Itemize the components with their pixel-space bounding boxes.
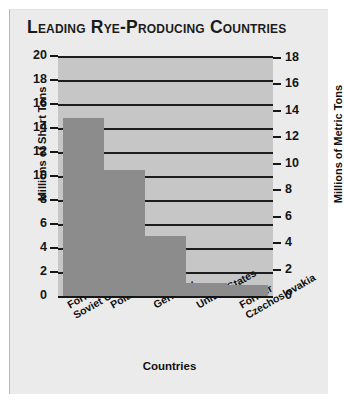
y-tick-right-mark [273, 110, 281, 112]
y-tick-left-mark [50, 247, 58, 249]
y-tick-right-mark [273, 269, 281, 271]
y-tick-left-label: 20 [33, 48, 47, 62]
y-tick-right-label: 6 [285, 209, 292, 223]
y-tick-right-mark [273, 189, 281, 191]
y-tick-left-mark [50, 79, 58, 81]
y-tick-left-mark [50, 271, 58, 273]
y-tick-left-mark [50, 103, 58, 105]
y-tick-right-label: 18 [285, 50, 299, 64]
chart-title: Leading Rye-Producing Countries [27, 17, 297, 38]
y-tick-right-label: 16 [285, 76, 299, 90]
y-axis-left-ticks: 02468101214161820 [10, 56, 58, 296]
x-axis-title: Countries [10, 360, 329, 372]
bar [186, 283, 227, 296]
y-tick-left-label: 4 [40, 240, 47, 254]
y-tick-left-mark [50, 199, 58, 201]
y-tick-left-mark [50, 55, 58, 57]
bar [104, 170, 145, 296]
y-tick-right-label: 8 [285, 182, 292, 196]
y-tick-right-mark [273, 242, 281, 244]
y-tick-right-mark [273, 57, 281, 59]
y-axis-left-title: Millions of Short Tons [36, 64, 48, 224]
bar [145, 236, 186, 296]
chart-card: Leading Rye-Producing Countries 02468101… [9, 9, 328, 394]
y-tick-right-mark [273, 163, 281, 165]
y-tick-left-label: 2 [40, 264, 47, 278]
y-tick-left-label: 0 [40, 288, 47, 302]
bar [63, 118, 104, 296]
y-tick-right-label: 12 [285, 129, 299, 143]
y-tick-right-mark [273, 83, 281, 85]
y-tick-left-mark [50, 175, 58, 177]
y-tick-right-label: 14 [285, 103, 299, 117]
y-tick-right-mark [273, 136, 281, 138]
y-tick-right-label: 10 [285, 156, 299, 170]
y-axis-right-title: Millions of Metric Tons [332, 64, 344, 224]
y-tick-left-mark [50, 151, 58, 153]
y-tick-left-mark [50, 127, 58, 129]
y-tick-right-mark [273, 216, 281, 218]
bar [227, 285, 268, 296]
y-tick-left-mark [50, 223, 58, 225]
